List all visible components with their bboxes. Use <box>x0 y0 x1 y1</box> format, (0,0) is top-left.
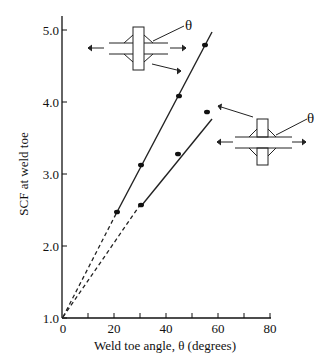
x-tick-80: 80 <box>264 321 277 336</box>
y-tick-1: 1.0 <box>43 311 59 326</box>
upper-series-line <box>117 32 212 212</box>
theta-label-top: θ <box>185 17 192 33</box>
y-tick-2: 2.0 <box>43 239 59 254</box>
x-ticks <box>88 313 270 318</box>
lower-series-line <box>142 119 212 205</box>
y-axis-label: SCF at weld toe <box>16 132 31 216</box>
x-tick-20: 20 <box>108 321 121 336</box>
y-tick-4: 4.0 <box>43 95 59 110</box>
x-tick-40: 40 <box>160 321 173 336</box>
top-joint-diagram <box>88 26 186 74</box>
lower-series-points <box>138 110 210 208</box>
x-axis-label: Weld toe angle, θ (degrees) <box>94 338 236 353</box>
lower-series-extrapolation <box>63 205 140 317</box>
y-tick-3: 3.0 <box>43 167 59 182</box>
upper-series-extrapolation <box>63 212 117 317</box>
theta-label-right: θ <box>307 110 314 126</box>
scf-chart: 1.0 2.0 3.0 4.0 5.0 0 20 40 60 80 Weld t… <box>0 0 329 360</box>
x-tick-0: 0 <box>60 321 67 336</box>
y-tick-5: 5.0 <box>43 23 59 38</box>
right-joint-diagram <box>217 104 307 165</box>
x-tick-60: 60 <box>212 321 225 336</box>
y-ticks <box>62 30 67 318</box>
